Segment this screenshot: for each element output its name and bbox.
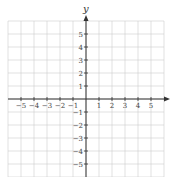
coordinate-grid: xy−5−4−3−2−11234554321−1−2−3−4−5 (0, 0, 173, 177)
y-axis-arrow-icon (84, 15, 89, 21)
x-tick-label: −3 (42, 102, 52, 110)
x-tick-label: 5 (149, 102, 153, 110)
y-tick-label: −3 (73, 135, 83, 143)
y-tick-label: 2 (79, 70, 83, 78)
x-tick-label: 1 (97, 102, 101, 110)
x-tick-label: 3 (123, 102, 127, 110)
y-tick-label: 5 (79, 31, 83, 39)
y-axis-label: y (82, 3, 89, 14)
y-tick-label: −2 (73, 122, 83, 130)
y-tick-label: −1 (73, 109, 83, 117)
y-tick-label: 3 (79, 57, 83, 65)
y-tick-label: 1 (79, 83, 83, 91)
x-tick-label: 2 (110, 102, 114, 110)
x-tick-label: −4 (29, 102, 40, 110)
y-tick-label: 4 (79, 44, 84, 52)
coordinate-plane: xy−5−4−3−2−11234554321−1−2−3−4−5 (0, 0, 173, 177)
y-tick-label: −4 (73, 148, 84, 156)
y-tick-label: −5 (73, 161, 83, 169)
x-tick-label: −5 (16, 102, 26, 110)
x-tick-label: −2 (55, 102, 65, 110)
x-tick-label: 4 (136, 102, 141, 110)
x-axis-arrow-icon (164, 97, 170, 102)
